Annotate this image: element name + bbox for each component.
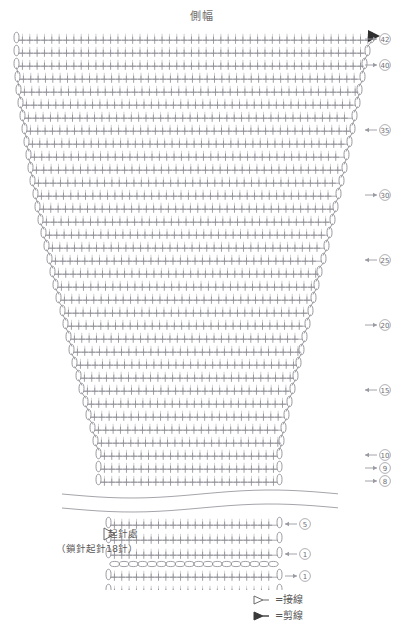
svg-text:8: 8: [383, 478, 387, 486]
row-number-label: 20: [365, 320, 390, 331]
row-number-label: 25: [365, 255, 390, 266]
row-number-label: 1: [285, 549, 310, 560]
svg-text:1: 1: [303, 573, 307, 581]
svg-text:25: 25: [381, 257, 390, 265]
stitch-chart: 4240353025201510985113: [0, 28, 404, 590]
legend-item-join-label: =接線: [275, 592, 303, 608]
svg-text:1: 1: [303, 551, 307, 559]
svg-text:9: 9: [383, 465, 387, 473]
row-number-label: 30: [365, 190, 390, 201]
page-title: 側幅: [0, 10, 404, 24]
start-point-annotation: 起針處 （鎖針起針18針）: [8, 526, 138, 556]
row-number-label: 5: [285, 519, 310, 530]
pattern-chart-page: 側幅 4240353025201510985113 起針處 （鎖針起針18針）: [0, 0, 404, 644]
svg-text:5: 5: [303, 521, 307, 529]
svg-text:20: 20: [381, 322, 390, 330]
legend-item-cut: =剪線: [252, 608, 402, 624]
row-number-label: 35: [365, 125, 390, 136]
svg-text:15: 15: [381, 387, 390, 395]
row-number-label: 1: [285, 571, 310, 582]
row-number-label: 40: [365, 60, 390, 71]
svg-text:42: 42: [381, 36, 390, 44]
yarn-marker-layer: [104, 30, 380, 540]
legend-item-join: =接線: [252, 592, 402, 608]
omission-break-layer: [62, 490, 338, 512]
svg-text:30: 30: [381, 192, 390, 200]
legend-item-cut-label: =剪線: [275, 608, 303, 624]
row-number-label: 10: [365, 450, 390, 461]
stitch-chart-svg: 4240353025201510985113: [0, 28, 404, 590]
svg-text:10: 10: [381, 452, 390, 460]
legend: =接線 =剪線: [252, 592, 402, 624]
open-triangle-icon: [252, 595, 272, 605]
row-number-layer: 4240353025201510985113: [285, 34, 390, 590]
svg-text:40: 40: [381, 62, 390, 70]
filled-triangle-icon: [252, 611, 272, 621]
row-number-label: 9: [365, 463, 390, 474]
start-point-label: 起針處: [8, 526, 138, 541]
svg-text:35: 35: [381, 127, 390, 135]
foundation-chain-label: （鎖針起針18針）: [8, 541, 138, 556]
row-number-label: 8: [365, 476, 390, 487]
row-number-label: 15: [365, 385, 390, 396]
